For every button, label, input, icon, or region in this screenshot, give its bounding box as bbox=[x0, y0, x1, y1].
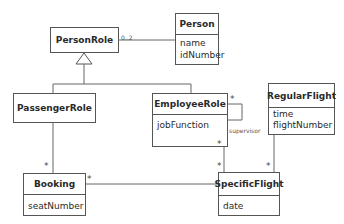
class-attributes: jobFunction bbox=[153, 115, 227, 133]
class-person[interactable]: Person name idNumber bbox=[175, 13, 219, 65]
attribute: flightNumber bbox=[273, 120, 330, 131]
attribute: date bbox=[223, 200, 275, 212]
multiplicity-label: 0..2 bbox=[121, 33, 132, 42]
class-person-role[interactable]: PersonRole bbox=[50, 27, 119, 53]
association-employee-self-loop bbox=[227, 104, 242, 120]
generalization-arrow-icon bbox=[76, 53, 92, 64]
class-name: Person bbox=[176, 14, 218, 35]
multiplicity-label: * bbox=[230, 95, 235, 104]
class-attributes: name idNumber bbox=[176, 35, 218, 63]
class-booking[interactable]: Booking seatNumber bbox=[23, 173, 86, 216]
class-name: EmployeeRole bbox=[153, 94, 227, 115]
multiplicity-label: * bbox=[44, 162, 49, 171]
class-name: PersonRole bbox=[51, 28, 118, 52]
class-name: PassengerRole bbox=[14, 94, 95, 122]
multiplicity-label: * bbox=[217, 162, 222, 171]
multiplicity-label: * bbox=[87, 175, 92, 184]
class-passenger-role[interactable]: PassengerRole bbox=[13, 93, 96, 123]
class-name: RegularFlight bbox=[269, 84, 334, 108]
attribute: idNumber bbox=[180, 49, 214, 61]
attribute: name bbox=[180, 37, 214, 49]
multiplicity-label: * bbox=[266, 162, 271, 171]
role-label: supervisor bbox=[229, 126, 260, 135]
class-name: SpecificFlight bbox=[219, 173, 279, 196]
class-specific-flight[interactable]: SpecificFlight date bbox=[218, 172, 280, 216]
attribute: time bbox=[273, 109, 330, 120]
multiplicity-label: * bbox=[217, 140, 222, 149]
attribute: jobFunction bbox=[157, 119, 223, 131]
class-attributes: time flightNumber bbox=[269, 108, 334, 133]
class-name: Booking bbox=[24, 174, 85, 195]
class-regular-flight[interactable]: RegularFlight time flightNumber bbox=[268, 83, 335, 135]
attribute: seatNumber bbox=[28, 200, 81, 212]
class-attributes: seatNumber bbox=[24, 195, 85, 214]
class-attributes: date bbox=[219, 196, 279, 214]
